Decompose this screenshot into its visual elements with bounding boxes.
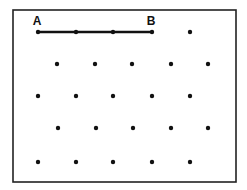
grid-dot xyxy=(169,126,173,130)
grid-dot xyxy=(56,126,60,130)
grid-dot xyxy=(131,126,135,130)
grid-dot xyxy=(150,160,154,164)
label-b: B xyxy=(147,14,156,28)
diagram-frame xyxy=(13,10,236,182)
grid-dot xyxy=(150,30,154,34)
grid-dot xyxy=(36,94,40,98)
grid-dot xyxy=(188,94,192,98)
grid-dot xyxy=(206,126,210,130)
grid-dot xyxy=(74,30,78,34)
dot-grid-diagram: A B xyxy=(0,0,247,190)
label-a: A xyxy=(33,14,42,28)
dot-grid xyxy=(36,30,210,164)
grid-dot xyxy=(111,94,115,98)
grid-dot xyxy=(74,94,78,98)
grid-dot xyxy=(111,30,115,34)
grid-dot xyxy=(111,160,115,164)
grid-dot xyxy=(206,62,210,66)
grid-dot xyxy=(188,160,192,164)
grid-dot xyxy=(93,62,97,66)
grid-dot xyxy=(150,94,154,98)
grid-dot xyxy=(74,160,78,164)
grid-dot xyxy=(36,30,40,34)
grid-dot xyxy=(36,160,40,164)
grid-dot xyxy=(55,62,59,66)
grid-dot xyxy=(188,30,192,34)
grid-dot xyxy=(94,126,98,130)
grid-dot xyxy=(169,62,173,66)
grid-dot xyxy=(130,62,134,66)
